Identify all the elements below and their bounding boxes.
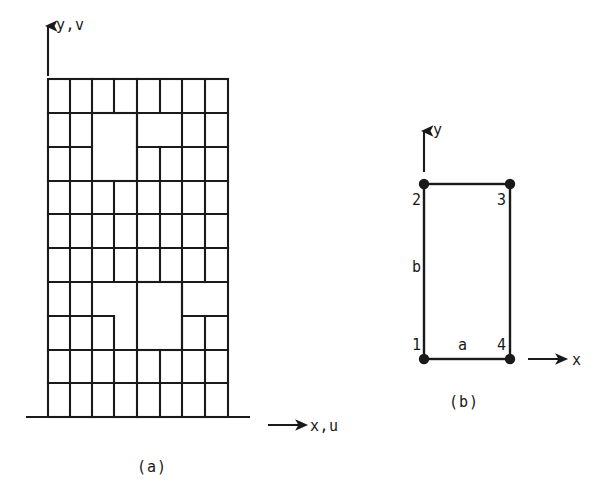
dimension-label-a: a [458, 336, 468, 354]
mesh-coarse-region-upper [92, 113, 137, 181]
node-marker-3 [505, 179, 515, 189]
figure-canvas [0, 0, 612, 496]
dimension-label-b: b [412, 258, 422, 276]
node-label-1: 1 [412, 336, 422, 354]
panel-b-x-axis-label: x [572, 351, 582, 369]
panel-a-y-axis-label: y,v [56, 16, 85, 34]
node-marker-2 [419, 179, 429, 189]
figure-container: y,v x,u (a) y x 2 3 1 4 b a (b) [0, 0, 612, 496]
panel-a-mesh [48, 79, 228, 417]
panel-b-caption: (b) [449, 393, 479, 411]
node-label-2: 2 [412, 191, 422, 209]
element-rectangle [424, 184, 510, 359]
mesh-coarse-region-lower [137, 282, 182, 350]
node-marker-1 [419, 354, 429, 364]
panel-b-element [424, 184, 510, 359]
node-label-4: 4 [497, 336, 507, 354]
panel-a-x-axis-label: x,u [310, 417, 339, 435]
panel-a-caption: (a) [137, 458, 167, 476]
panel-b-y-axis-label: y [433, 121, 443, 139]
node-label-3: 3 [497, 191, 507, 209]
node-marker-4 [505, 354, 515, 364]
